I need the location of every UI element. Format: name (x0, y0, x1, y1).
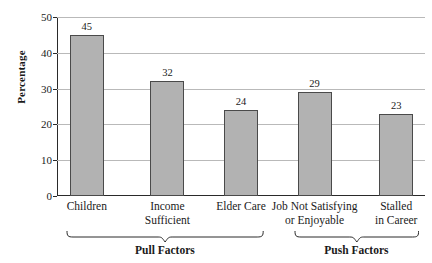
bar-chart: Percentage 01020304050 4532242923 Childr… (0, 0, 432, 263)
y-tick-mark (53, 89, 57, 90)
y-tick-label: 40 (41, 47, 52, 59)
x-tick-label-line: Children (67, 200, 107, 214)
x-tick-label-line: Income (145, 200, 190, 214)
x-tick-label: Stalledin Career (375, 200, 417, 227)
y-tick-mark (53, 196, 57, 197)
x-tick-label: Elder Care (216, 200, 266, 214)
x-tick-label-line: Elder Care (216, 200, 266, 214)
y-tick-label: 50 (41, 11, 52, 23)
y-axis-title: Percentage (15, 27, 33, 127)
bar (70, 35, 104, 196)
x-tick-label-line: Stalled (375, 200, 417, 214)
x-tick-label: Job Not Satisfyingor Enjoyable (272, 200, 358, 227)
bar (298, 92, 332, 196)
bar-value-label: 24 (236, 96, 247, 107)
group-label: Push Factors (324, 244, 388, 256)
y-tick-label: 0 (47, 190, 53, 202)
bar (224, 110, 258, 196)
x-tick-label-line: or Enjoyable (272, 214, 358, 228)
y-tick-label: 30 (41, 83, 52, 95)
y-tick-label: 20 (41, 118, 52, 130)
y-tick-mark (53, 53, 57, 54)
bar-value-label: 45 (82, 21, 93, 32)
gridline (57, 53, 425, 54)
x-tick-label-line: Job Not Satisfying (272, 200, 358, 214)
y-tick-label: 10 (41, 154, 52, 166)
y-tick-mark (53, 160, 57, 161)
x-tick-label-line: in Career (375, 214, 417, 228)
x-tick-label-line: Sufficient (145, 214, 190, 228)
gridline (57, 89, 425, 90)
y-tick-mark (53, 124, 57, 125)
group-brace-icon (294, 230, 420, 243)
plot-area: 01020304050 4532242923 (57, 17, 425, 196)
x-tick-label: IncomeSufficient (145, 200, 190, 227)
bar-value-label: 29 (309, 78, 320, 89)
bar-value-label: 23 (391, 100, 402, 111)
x-tick-label: Children (67, 200, 107, 214)
group-label: Pull Factors (135, 244, 195, 256)
bar (379, 114, 413, 196)
bar-value-label: 32 (162, 67, 173, 78)
group-brace-icon (66, 230, 264, 243)
y-tick-mark (53, 17, 57, 18)
gridline (57, 17, 425, 18)
bar (150, 81, 184, 196)
